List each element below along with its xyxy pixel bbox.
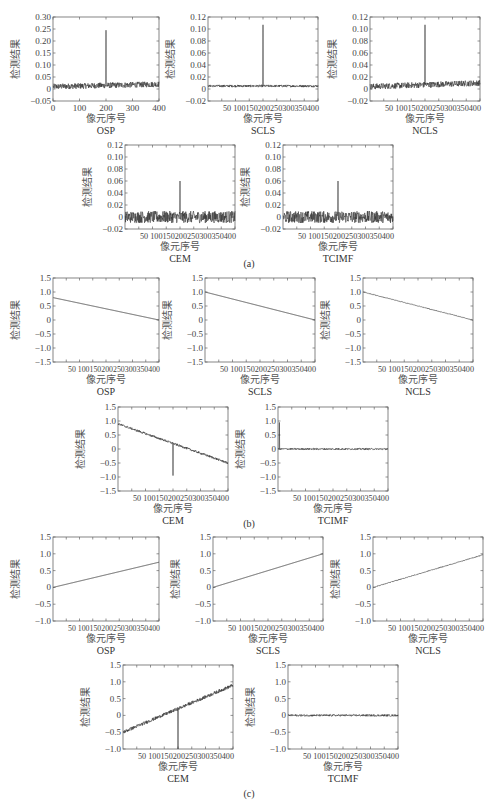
x-axis-label: 像元序号 [313,502,353,514]
data-series [213,554,323,588]
y-tick-label: 0.06 [190,48,206,58]
data-series [278,422,388,449]
x-tick-labels: 50 100150200250300350400 [220,364,316,374]
y-tick-label: 0.20 [35,36,51,46]
y-tick-label: 0 [202,84,207,94]
x-tick-label: 100 [73,103,87,113]
y-axis-label: 检测结果 [9,39,21,79]
x-axis-label: 像元序号 [160,240,200,252]
y-axis-label: 检测结果 [79,687,91,727]
y-tick-label: 1.0 [350,287,362,297]
y-tick-label: −1.0 [260,472,277,482]
x-tick-labels: 50 100150200250300350400 [298,231,394,241]
y-tick-label: 0.12 [352,12,368,22]
x-axis-label: 像元序号 [323,760,363,772]
x-axis-label: 像元序号 [158,760,198,772]
x-tick-labels: 50 100150200250300350400 [68,623,160,633]
chart-panel-a-tcimf: −0.0200.020.040.060.080.100.1250 1001502… [239,140,394,264]
chart-panel-b-cem: −1.5−1.0−0.500.51.01.550 100150200250300… [74,402,229,526]
y-tick-label: 1.5 [350,273,362,283]
x-axis-label: 像元序号 [398,373,438,385]
y-axis-label: 检测结果 [161,300,173,340]
y-tick-label: 1.0 [275,677,287,687]
y-tick-label: 0.08 [190,36,206,46]
y-tick-label: 1.5 [40,273,52,283]
y-tick-label: −0.02 [102,224,123,234]
y-tick-label: −0.5 [187,329,204,339]
method-name: SCLS [248,386,272,397]
x-axis-label: 像元序号 [318,240,358,252]
x-tick-labels: 50 100150200250300350400 [140,231,236,241]
chart-panel-c-scls: −1.0−0.500.51.01.550 1001502002503003504… [169,532,324,656]
data-series [53,30,159,89]
y-tick-label: 0.12 [107,140,123,150]
y-tick-label: 0.12 [265,140,281,150]
y-tick-label: 0.06 [265,176,281,186]
data-series [288,714,398,716]
x-tick-labels: 50 100150200250300350400 [133,493,229,503]
y-tick-label: 0.10 [190,24,206,34]
y-axis-label: 检测结果 [319,300,331,340]
y-tick-label: −1.5 [187,357,204,367]
data-series [123,684,233,749]
chart-panel-b-tcimf: −1.5−1.0−0.500.51.01.550 100150200250300… [234,402,389,526]
y-tick-label: −0.02 [260,224,281,234]
y-tick-label: 0 [117,710,122,720]
y-axis-label: 检测结果 [239,167,251,207]
x-axis-label: 像元序号 [243,112,283,124]
method-name: TCIMF [328,773,359,784]
y-tick-label: −0.02 [347,96,368,106]
y-tick-label: −0.5 [260,458,277,468]
y-tick-label: 1.0 [200,549,212,559]
x-tick-labels: 50 100150200250300350400 [68,364,160,374]
y-tick-label: 0.10 [352,24,368,34]
y-tick-label: 0 [207,582,212,592]
y-tick-label: 0.04 [352,60,368,70]
y-tick-label: 0.08 [265,164,281,174]
x-axis-label: 像元序号 [240,373,280,385]
y-tick-label: −1.0 [195,616,212,626]
y-tick-label: 0 [119,212,124,222]
plot-frame [288,665,398,749]
subfigure-caption: (b) [243,518,255,530]
y-tick-label: 0.5 [360,566,372,576]
y-tick-label: −1.0 [35,616,52,626]
y-tick-label: 1.5 [200,532,212,542]
chart-panel-b-osp: −1.5−1.0−0.500.51.01.550 100150200250300… [9,273,160,397]
y-tick-label: 0.5 [265,430,277,440]
y-tick-label: 1.5 [110,660,122,670]
data-series [53,298,159,320]
y-axis-label: 检测结果 [81,167,93,207]
y-tick-label: 1.0 [40,549,52,559]
plot-frame [373,537,483,621]
chart-panel-a-cem: −0.0200.020.040.060.080.100.1250 1001502… [81,140,236,264]
x-tick-labels: 50 100150200250300350400 [385,103,481,113]
x-tick-labels: 50 100150200250300350400 [388,623,484,633]
y-axis-label: 检测结果 [169,559,181,599]
method-name: OSP [97,386,116,397]
y-tick-label: 0.12 [190,12,206,22]
method-name: CEM [169,253,191,264]
x-tick-labels: 50 100150200250300350400 [293,493,389,503]
y-tick-label: 0 [272,444,277,454]
method-name: CEM [162,515,184,526]
x-axis-label: 像元序号 [153,502,193,514]
y-axis-label: 检测结果 [74,429,86,469]
data-series [118,423,228,475]
data-series [283,181,393,223]
y-tick-label: 1.0 [192,287,204,297]
y-tick-label: −1.5 [260,486,277,496]
y-tick-label: 1.5 [40,532,52,542]
data-series [53,562,159,587]
y-tick-label: 0.06 [107,176,123,186]
y-tick-label: −0.5 [105,727,122,737]
data-series [370,25,480,90]
y-tick-label: 0.02 [107,200,123,210]
data-series [125,181,235,223]
y-tick-label: −0.5 [270,727,287,737]
y-tick-label: 0 [357,315,362,325]
y-tick-label: 1.5 [105,402,117,412]
y-tick-label: 0.15 [35,48,51,58]
y-axis-label: 检测结果 [326,39,338,79]
x-tick-label: 200 [99,103,113,113]
